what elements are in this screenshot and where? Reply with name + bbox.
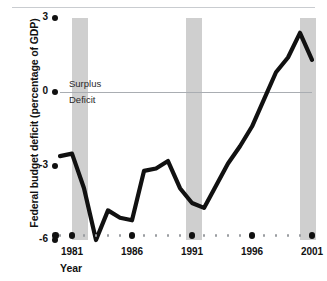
y-tick-label-3: 3 [26, 11, 48, 22]
x-minor-tick-1988 [155, 234, 158, 237]
x-minor-tick-1980 [59, 234, 62, 237]
x-minor-tick-1983 [95, 234, 98, 237]
x-minor-tick-1993 [215, 234, 218, 237]
x-minor-tick-1995 [239, 234, 242, 237]
x-axis-title: Year [60, 262, 82, 274]
plot-area [60, 18, 312, 240]
series-layer [60, 18, 312, 240]
deficit-annotation: Deficit [69, 94, 95, 105]
chart-figure: Federal budget deficit (percentage of GD… [0, 0, 327, 281]
x-tick-label-1986: 1986 [112, 246, 152, 257]
x-axis-origin-marker [52, 232, 59, 239]
x-minor-tick-1998 [275, 234, 278, 237]
x-minor-tick-2000 [299, 234, 302, 237]
x-minor-tick-1984 [107, 234, 110, 237]
y-tick-label-neg6: -6 [26, 233, 48, 244]
y-tick-label-neg3: -3 [26, 159, 48, 170]
x-minor-tick-1992 [203, 234, 206, 237]
y-tick-label-0: 0 [26, 85, 48, 96]
x-minor-tick-1999 [287, 234, 290, 237]
x-minor-tick-1985 [119, 234, 122, 237]
x-tick-label-1991: 1991 [172, 246, 212, 257]
x-tick-marker-1981 [69, 232, 76, 239]
y-tick-marker-0 [52, 89, 58, 95]
x-minor-tick-1990 [179, 234, 182, 237]
x-tick-marker-1991 [189, 232, 196, 239]
x-minor-tick-1997 [263, 234, 266, 237]
x-minor-tick-1994 [227, 234, 230, 237]
x-minor-tick-1989 [167, 234, 170, 237]
y-axis-title: Federal budget deficit (percentage of GD… [28, 16, 40, 231]
x-tick-label-1996: 1996 [232, 246, 272, 257]
x-tick-marker-1996 [249, 232, 256, 239]
x-tick-marker-2001 [309, 232, 316, 239]
top-divider-rule [12, 7, 315, 8]
y-tick-marker-neg3 [52, 163, 58, 169]
y-tick-marker-3 [52, 15, 58, 21]
surplus-annotation: Surplus [69, 78, 101, 89]
series-line-0 [60, 33, 312, 240]
x-tick-label-1981: 1981 [52, 246, 92, 257]
x-tick-marker-1986 [129, 232, 136, 239]
x-tick-label-2001: 2001 [292, 246, 327, 257]
x-minor-tick-1982 [83, 234, 86, 237]
x-minor-tick-1987 [143, 234, 146, 237]
